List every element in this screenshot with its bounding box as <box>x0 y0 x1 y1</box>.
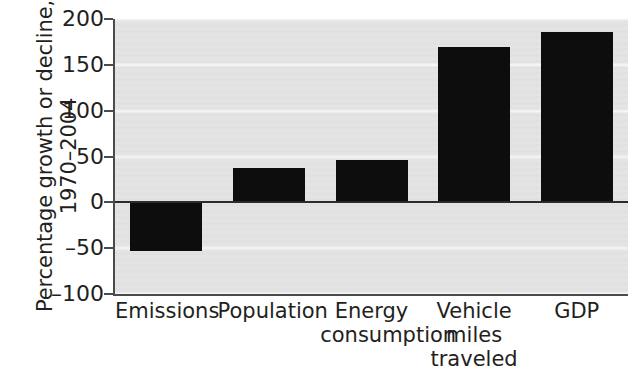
y-axis-tick-label: 0 <box>0 191 104 213</box>
y-axis-tick-label: 150 <box>0 54 104 76</box>
plot-area <box>115 19 628 294</box>
bar <box>233 168 305 203</box>
x-axis-tick-label: GDP <box>525 300 628 324</box>
y-axis-tick-mark <box>104 247 113 249</box>
y-axis-tick-label: –100 <box>0 283 104 305</box>
x-axis-tick-label: Energy consumption <box>320 300 423 348</box>
x-axis-tick-label: Vehicle miles traveled <box>423 300 526 372</box>
bar <box>130 202 202 251</box>
x-axis-tick-label: Population <box>218 300 321 324</box>
x-axis-spine <box>113 294 628 296</box>
bar <box>541 32 613 203</box>
y-axis-tick-mark <box>104 156 113 158</box>
zero-line <box>115 201 628 203</box>
x-axis-tick-labels: EmissionsPopulationEnergy consumptionVeh… <box>115 300 628 376</box>
y-axis-tick-label: 200 <box>0 8 104 30</box>
y-axis-tick-mark <box>104 64 113 66</box>
y-axis-tick-mark <box>104 293 113 295</box>
gridline <box>115 19 628 21</box>
y-axis-tick-labels: 200150100500–50–100 <box>0 0 104 376</box>
bar <box>438 47 510 203</box>
bar-chart: Percentage growth or decline, 1970–2004 … <box>0 0 628 376</box>
y-axis-tick-mark <box>104 110 113 112</box>
y-axis-tick-label: 100 <box>0 100 104 122</box>
y-axis-tick-mark <box>104 201 113 203</box>
x-axis-tick-label: Emissions <box>115 300 218 324</box>
bar <box>336 160 408 202</box>
y-axis-tick-mark <box>104 18 113 20</box>
y-axis-tick-label: 50 <box>0 146 104 168</box>
y-axis-tick-label: –50 <box>0 237 104 259</box>
